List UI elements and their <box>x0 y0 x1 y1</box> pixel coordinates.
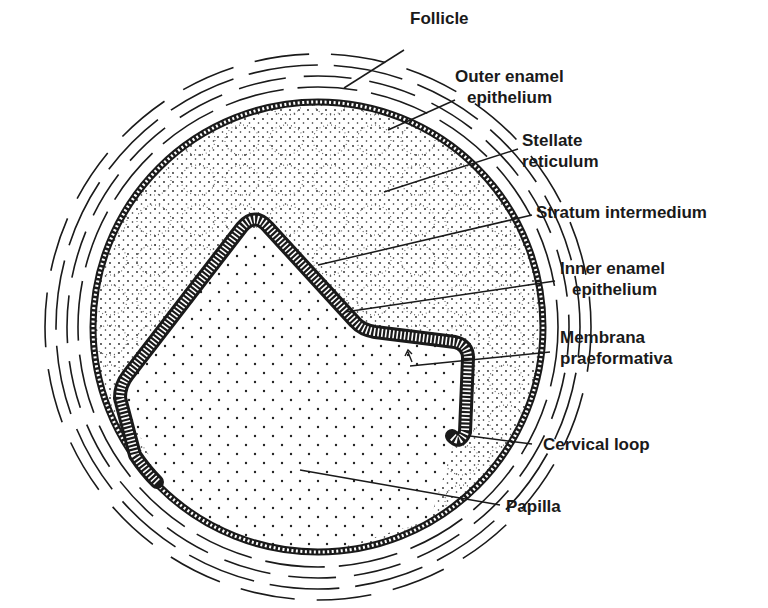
label-cervical-loop: Cervical loop <box>543 434 650 455</box>
label-papilla: Papilla <box>506 496 561 517</box>
label-inner-enamel-epithelium: Inner enamel epithelium <box>560 258 665 300</box>
label-stellate-reticulum: Stellate reticulum <box>522 130 599 172</box>
label-stratum-intermedium: Stratum intermedium <box>536 202 707 223</box>
label-membrana-praeformativa: Membrana praeformativa <box>560 327 672 369</box>
label-follicle: Follicle <box>410 8 469 29</box>
label-outer-enamel-epithelium: Outer enamel epithelium <box>455 66 564 108</box>
tooth-germ-diagram <box>0 0 768 608</box>
